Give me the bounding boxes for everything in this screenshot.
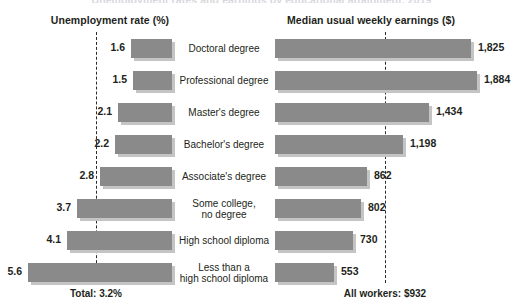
earnings-bar (275, 39, 471, 58)
earnings-value-label: 862 (374, 169, 392, 181)
unemployment-bar (100, 167, 172, 186)
earnings-value-label: 1,825 (478, 41, 504, 53)
unemployment-bar-zone: 2.2 (0, 129, 172, 161)
chart-row: 4.1High school diploma730 (0, 225, 523, 257)
unemployment-value-label: 4.1 (46, 233, 61, 245)
chart-row: 2.2Bachelor's degree1,198 (0, 129, 523, 161)
unemployment-value-label: 1.6 (110, 41, 125, 53)
right-column-header: Median usual weekly earnings ($) (252, 14, 490, 26)
unemployment-bar (77, 199, 172, 218)
unemployment-bar (118, 103, 172, 122)
unemployment-bar-zone: 1.5 (0, 65, 172, 97)
unemployment-bar-zone: 3.7 (0, 193, 172, 225)
unemployment-value-label: 3.7 (56, 201, 71, 213)
chart-row: 1.5Professional degree1,884 (0, 65, 523, 97)
unemployment-bar (28, 263, 172, 282)
category-label: Bachelor's degree (174, 129, 274, 161)
category-label: High school diploma (174, 225, 274, 257)
earnings-value-label: 553 (341, 265, 359, 277)
chart-row: 1.6Doctoral degree1,825 (0, 33, 523, 65)
left-column-header: Unemployment rate (%) (0, 14, 220, 26)
unemployment-bar (131, 39, 172, 58)
dual-bar-chart: Unemployment rates and earnings by educa… (0, 0, 523, 306)
category-label: Less than a high school diploma (174, 257, 274, 289)
unemployment-bar-zone: 2.8 (0, 161, 172, 193)
unemployment-bar (115, 135, 172, 154)
unemployment-value-label: 2.1 (97, 105, 112, 117)
right-total-note: All workers: $932 (325, 288, 445, 299)
chart-row: 3.7Some college, no degree802 (0, 193, 523, 225)
earnings-value-label: 730 (360, 233, 378, 245)
left-total-note: Total: 3.2% (36, 288, 156, 299)
earnings-bar (275, 71, 477, 90)
category-label: Doctoral degree (174, 33, 274, 65)
earnings-bar (275, 103, 429, 122)
unemployment-bar-zone: 4.1 (0, 225, 172, 257)
earnings-bar (275, 167, 367, 186)
category-label: Professional degree (174, 65, 274, 97)
unemployment-bar-zone: 5.6 (0, 257, 172, 289)
unemployment-bar (133, 71, 172, 90)
category-label: Master's degree (174, 97, 274, 129)
chart-row: 5.6Less than a high school diploma553 (0, 257, 523, 289)
category-label: Associate's degree (174, 161, 274, 193)
chart-title-cutoff: Unemployment rates and earnings by educa… (0, 0, 523, 3)
unemployment-bar-zone: 1.6 (0, 33, 172, 65)
unemployment-value-label: 2.8 (79, 169, 94, 181)
earnings-bar (275, 135, 403, 154)
earnings-bar (275, 199, 361, 218)
earnings-value-label: 1,198 (410, 137, 436, 149)
unemployment-value-label: 5.6 (7, 265, 22, 277)
earnings-value-label: 1,434 (436, 105, 462, 117)
earnings-value-label: 802 (368, 201, 386, 213)
category-label: Some college, no degree (174, 193, 274, 225)
unemployment-bar (67, 231, 172, 250)
unemployment-value-label: 1.5 (112, 73, 127, 85)
chart-row: 2.8Associate's degree862 (0, 161, 523, 193)
chart-row: 2.1Master's degree1,434 (0, 97, 523, 129)
earnings-value-label: 1,884 (484, 73, 510, 85)
earnings-bar (275, 263, 334, 282)
unemployment-bar-zone: 2.1 (0, 97, 172, 129)
unemployment-value-label: 2.2 (94, 137, 109, 149)
earnings-bar (275, 231, 353, 250)
